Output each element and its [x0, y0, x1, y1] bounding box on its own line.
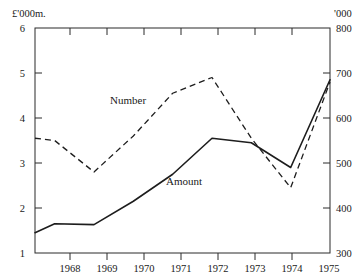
x-tick-1972: 1972 [208, 263, 229, 274]
left-axis-ticks [35, 73, 42, 208]
left-tick-4: 4 [20, 113, 26, 124]
x-tick-1975: 1975 [319, 263, 340, 274]
right-axis-title: '000 [334, 8, 352, 19]
top-axis-ticks [70, 28, 292, 35]
series-line-number [35, 78, 330, 188]
x-tick-1968: 1968 [60, 263, 81, 274]
x-tick-1974: 1974 [282, 263, 304, 274]
x-tick-1969: 1969 [97, 263, 118, 274]
line-chart-svg: £'000m. '000 6 5 4 3 2 1 [0, 0, 360, 277]
right-tick-300: 300 [336, 248, 352, 259]
plot-frame [35, 28, 330, 253]
left-tick-5: 5 [20, 68, 25, 79]
left-axis-title: £'000m. [12, 8, 46, 19]
left-tick-2: 2 [20, 203, 25, 214]
x-axis-tick-labels: 1968 1969 1970 1971 1972 1973 1974 1975 [60, 263, 340, 274]
left-axis-tick-labels: 6 5 4 3 2 1 [20, 23, 26, 259]
series-line-amount [35, 80, 330, 233]
right-axis-tick-labels: 800 700 600 500 400 300 [336, 23, 352, 259]
chart-figure: £'000m. '000 6 5 4 3 2 1 [0, 0, 360, 277]
right-tick-500: 500 [336, 158, 352, 169]
x-tick-1971: 1971 [171, 263, 192, 274]
x-tick-1973: 1973 [245, 263, 266, 274]
right-tick-400: 400 [336, 203, 352, 214]
right-tick-800: 800 [336, 23, 352, 34]
bottom-axis-ticks [70, 253, 292, 260]
left-tick-1: 1 [20, 248, 25, 259]
right-tick-600: 600 [336, 113, 352, 124]
x-tick-1970: 1970 [134, 263, 155, 274]
series-label-number: Number [110, 94, 146, 106]
series-label-amount: Amount [166, 175, 202, 187]
left-tick-6: 6 [20, 23, 25, 34]
right-tick-700: 700 [336, 68, 352, 79]
left-tick-3: 3 [20, 158, 25, 169]
